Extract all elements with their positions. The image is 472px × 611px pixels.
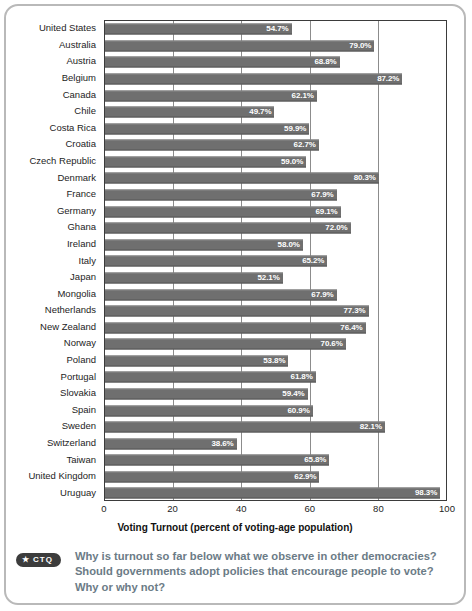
bar-row: 52.1%: [105, 270, 446, 287]
bar: [105, 488, 440, 499]
bar-row: 70.6%: [105, 336, 446, 353]
bar-value-label: 65.8%: [304, 456, 326, 464]
x-axis-tick: 40: [236, 504, 247, 514]
bar-value-label: 52.1%: [257, 274, 279, 282]
bar: [105, 405, 313, 416]
bar-value-label: 62.1%: [292, 92, 314, 100]
bar: [105, 90, 317, 101]
bar-value-label: 54.7%: [266, 25, 288, 33]
y-axis-label: Portugal: [61, 372, 96, 382]
bar-row: 62.1%: [105, 87, 446, 104]
chart-area: United StatesAustraliaAustriaBelgiumCana…: [6, 6, 464, 546]
bar: [105, 24, 292, 35]
bar: [105, 471, 319, 482]
bar: [105, 190, 337, 201]
bar: [105, 156, 306, 167]
bar: [105, 223, 351, 234]
y-axis-label: United Kingdom: [28, 471, 96, 481]
bar-value-label: 59.9%: [284, 125, 306, 133]
y-axis-label: Austria: [66, 57, 96, 67]
bar: [105, 455, 329, 466]
bar-row: 62.7%: [105, 137, 446, 154]
bar-row: 98.3%: [105, 485, 446, 502]
bar-value-label: 60.9%: [287, 407, 309, 415]
bar-row: 65.8%: [105, 452, 446, 469]
bar-value-label: 70.6%: [321, 340, 343, 348]
bar-row: 72.0%: [105, 220, 446, 237]
bar-value-label: 38.6%: [211, 440, 233, 448]
y-axis-label: Mongolia: [57, 289, 96, 299]
ctq-question-text: Why is turnout so far below what we obse…: [75, 549, 450, 595]
bar: [105, 239, 303, 250]
bar-row: 53.8%: [105, 353, 446, 370]
bar-value-label: 62.7%: [294, 141, 316, 149]
bar: [105, 74, 402, 85]
bar-value-label: 79.0%: [349, 42, 371, 50]
x-axis-tick-labels: 020406080100: [104, 504, 447, 518]
bar-row: 60.9%: [105, 402, 446, 419]
bar: [105, 173, 379, 184]
y-axis-label: Costa Rica: [50, 123, 96, 133]
bar-row: 80.3%: [105, 170, 446, 187]
y-axis-label: Sweden: [62, 422, 96, 432]
bar-rows: 54.7%79.0%68.8%87.2%62.1%49.7%59.9%62.7%…: [105, 21, 446, 500]
bar-row: 67.9%: [105, 187, 446, 204]
y-axis-label: Slovakia: [60, 388, 96, 398]
y-axis-category-labels: United StatesAustraliaAustriaBelgiumCana…: [6, 20, 100, 501]
bar: [105, 140, 319, 151]
y-axis-label: Canada: [63, 90, 96, 100]
bar-value-label: 67.9%: [311, 191, 333, 199]
bar-value-label: 98.3%: [415, 489, 437, 497]
y-axis-label: Poland: [66, 355, 96, 365]
bar-value-label: 59.4%: [282, 390, 304, 398]
bar: [105, 322, 366, 333]
y-axis-label: Chile: [74, 106, 96, 116]
bar-row: 87.2%: [105, 71, 446, 88]
x-axis-tick: 80: [373, 504, 384, 514]
bar-value-label: 69.1%: [315, 208, 337, 216]
bar: [105, 57, 340, 68]
bar-value-label: 49.7%: [249, 108, 271, 116]
bar-value-label: 61.8%: [291, 373, 313, 381]
bar: [105, 306, 369, 317]
bar-row: 62.9%: [105, 469, 446, 486]
star-icon: ★: [22, 555, 30, 564]
bar-value-label: 53.8%: [263, 357, 285, 365]
y-axis-label: Germany: [57, 206, 96, 216]
bar-value-label: 77.3%: [343, 307, 365, 315]
bar-value-label: 65.2%: [302, 257, 324, 265]
x-axis-tick: 0: [101, 504, 106, 514]
bar-row: 67.9%: [105, 286, 446, 303]
ctq-badge-label: CTQ: [33, 555, 53, 564]
bar-row: 65.2%: [105, 253, 446, 270]
bar-row: 79.0%: [105, 38, 446, 55]
bar: [105, 422, 385, 433]
y-axis-label: Spain: [72, 405, 96, 415]
bar-value-label: 76.4%: [340, 324, 362, 332]
bar-row: 59.0%: [105, 154, 446, 171]
bar-value-label: 68.8%: [314, 58, 336, 66]
bar-value-label: 67.9%: [311, 291, 333, 299]
bar: [105, 372, 316, 383]
x-axis-tick: 20: [167, 504, 178, 514]
figure-frame: United StatesAustraliaAustriaBelgiumCana…: [4, 4, 466, 605]
bar: [105, 123, 309, 134]
y-axis-label: Taiwan: [66, 455, 96, 465]
y-axis-label: Belgium: [62, 73, 96, 83]
bar-row: 77.3%: [105, 303, 446, 320]
bar-row: 38.6%: [105, 435, 446, 452]
y-axis-label: United States: [39, 24, 96, 34]
bar-row: 69.1%: [105, 203, 446, 220]
bar: [105, 289, 337, 300]
x-axis-tick: 60: [305, 504, 316, 514]
bar-row: 49.7%: [105, 104, 446, 121]
bar-row: 58.0%: [105, 237, 446, 254]
y-axis-label: Switzerland: [47, 438, 96, 448]
plot-area: 54.7%79.0%68.8%87.2%62.1%49.7%59.9%62.7%…: [104, 20, 447, 501]
x-axis-title: Voting Turnout (percent of voting-age po…: [6, 522, 464, 533]
bar: [105, 40, 374, 51]
bar: [105, 339, 346, 350]
bar-value-label: 82.1%: [360, 423, 382, 431]
bar-row: 76.4%: [105, 319, 446, 336]
bar-row: 61.8%: [105, 369, 446, 386]
